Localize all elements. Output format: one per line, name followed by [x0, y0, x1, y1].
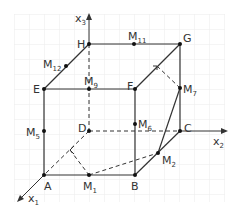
cube-diagram: A B C D E F G H M1 M2 M5 M6 M7 M9 M11 M1…	[0, 0, 239, 214]
label-D: D	[78, 122, 86, 135]
point-D	[87, 129, 91, 133]
label-F: F	[127, 80, 133, 93]
point-M2	[156, 151, 160, 155]
label-H: H	[77, 38, 85, 51]
point-E	[42, 87, 46, 91]
grid-background	[14, 14, 225, 202]
point-M6	[133, 122, 137, 126]
point-G	[178, 42, 182, 46]
label-G: G	[183, 32, 192, 45]
label-B: B	[131, 180, 139, 193]
label-E: E	[33, 83, 40, 96]
label-A: A	[44, 180, 52, 193]
point-C	[178, 129, 182, 133]
point-M1	[87, 173, 91, 177]
point-F	[133, 87, 137, 91]
point-M12	[64, 64, 68, 68]
point-A	[42, 173, 46, 177]
point-M5	[42, 129, 46, 133]
label-C: C	[184, 122, 192, 135]
point-B	[133, 173, 137, 177]
point-M7	[178, 86, 182, 90]
point-H	[87, 42, 91, 46]
